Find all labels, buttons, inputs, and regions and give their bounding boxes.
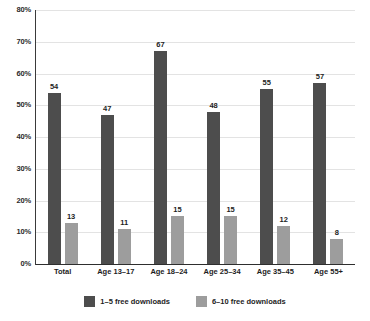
legend-label: 6–10 free downloads	[212, 297, 286, 306]
bar-value-label: 12	[280, 215, 288, 224]
bar[interactable]: 57	[313, 83, 326, 264]
bar-pair: 4815	[196, 10, 249, 264]
bar[interactable]: 15	[224, 216, 237, 264]
bar-group: 4711	[89, 10, 142, 264]
bar[interactable]: 8	[330, 239, 343, 264]
bar[interactable]: 12	[277, 226, 290, 264]
x-axis-tick-label: Age 18–24	[142, 267, 195, 276]
bar-pair: 578	[302, 10, 355, 264]
bar[interactable]: 13	[65, 223, 78, 264]
bar[interactable]: 47	[101, 115, 114, 264]
bar-value-label: 55	[263, 78, 271, 87]
legend-swatch-icon	[84, 296, 95, 307]
bar-value-label: 15	[173, 205, 181, 214]
bar[interactable]: 48	[207, 112, 220, 264]
legend-label: 1–5 free downloads	[100, 297, 170, 306]
bar[interactable]: 11	[118, 229, 131, 264]
bar-value-label: 57	[316, 72, 324, 81]
bar-pair: 4711	[89, 10, 142, 264]
y-axis-tick-label: 80%	[1, 5, 31, 14]
bar-chart: 80%70%60%50%40%30%20%10%0% 5413471167154…	[0, 0, 370, 321]
x-axis-tick-label: Age 25–34	[196, 267, 249, 276]
bar-pair: 6715	[142, 10, 195, 264]
bar-value-label: 13	[67, 212, 75, 221]
bar-value-label: 15	[226, 205, 234, 214]
bar[interactable]: 15	[171, 216, 184, 264]
bar-groups: 54134711671548155512578	[36, 10, 355, 264]
y-axis-tick-label: 20%	[1, 196, 31, 205]
bar-value-label: 48	[209, 101, 217, 110]
legend-item[interactable]: 1–5 free downloads	[84, 296, 170, 307]
y-axis-tick-label: 0%	[1, 259, 31, 268]
bar-value-label: 47	[103, 104, 111, 113]
bar[interactable]: 67	[154, 51, 167, 264]
legend-item[interactable]: 6–10 free downloads	[196, 296, 286, 307]
bar-group: 6715	[142, 10, 195, 264]
x-axis-tick-labels: TotalAge 13–17Age 18–24Age 25–34Age 35–4…	[36, 267, 355, 276]
y-axis-tick-label: 60%	[1, 69, 31, 78]
bar-value-label: 67	[156, 40, 164, 49]
x-axis-tick-label: Total	[36, 267, 89, 276]
bar-group: 4815	[196, 10, 249, 264]
chart-legend: 1–5 free downloads6–10 free downloads	[0, 296, 370, 307]
y-axis-tick-label: 40%	[1, 132, 31, 141]
y-axis-tick-label: 50%	[1, 100, 31, 109]
bar-value-label: 54	[50, 82, 58, 91]
bar-value-label: 11	[120, 218, 128, 227]
x-axis-tick-label: Age 35–45	[249, 267, 302, 276]
bar-group: 5413	[36, 10, 89, 264]
bar-pair: 5413	[36, 10, 89, 264]
bar-group: 5512	[249, 10, 302, 264]
bar-pair: 5512	[249, 10, 302, 264]
y-axis-tick-label: 30%	[1, 164, 31, 173]
y-axis-tick-label: 10%	[1, 227, 31, 236]
x-axis-line	[36, 264, 355, 265]
bar[interactable]: 55	[260, 89, 273, 264]
legend-swatch-icon	[196, 296, 207, 307]
bar-value-label: 8	[335, 228, 339, 237]
y-axis-tick-label: 70%	[1, 37, 31, 46]
bar[interactable]: 54	[48, 93, 61, 264]
bar-group: 578	[302, 10, 355, 264]
x-axis-tick-label: Age 13–17	[89, 267, 142, 276]
x-axis-tick-label: Age 55+	[302, 267, 355, 276]
